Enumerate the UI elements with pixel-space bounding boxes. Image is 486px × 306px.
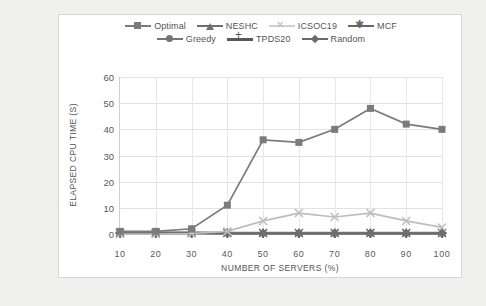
random-series-swatch bbox=[302, 34, 328, 44]
y-tick-label-50: 50 bbox=[103, 98, 114, 109]
x-tick-label-60: 60 bbox=[293, 249, 304, 259]
x-tick-label-80: 80 bbox=[365, 249, 376, 259]
y-tick-label-10: 10 bbox=[103, 202, 114, 213]
legend-row-1: Optimal NESHC ✕ ICSOC19 bbox=[125, 21, 397, 31]
x-tick-label-90: 90 bbox=[401, 249, 412, 259]
point-optimal-50 bbox=[260, 136, 267, 143]
y-tick-label-30: 30 bbox=[103, 150, 114, 161]
tpds20-series-swatch: + bbox=[227, 34, 253, 44]
point-optimal-70 bbox=[331, 126, 338, 133]
x-tick-label-30: 30 bbox=[186, 249, 197, 259]
y-tick-label-60: 60 bbox=[103, 72, 114, 83]
y-axis-title: ELAPSED CPU TIME (S) bbox=[68, 103, 78, 207]
legend-item-icsoc19[interactable]: ✕ ICSOC19 bbox=[269, 21, 337, 31]
neshc-series-swatch bbox=[197, 21, 223, 31]
series-layer bbox=[120, 77, 442, 234]
optimal-series-swatch bbox=[125, 21, 151, 31]
legend-row-2: Greedy + TPDS20 Random bbox=[157, 34, 365, 44]
gridline-x-100 bbox=[442, 77, 443, 234]
legend-label-mcf: MCF bbox=[377, 21, 397, 31]
greedy-series-swatch bbox=[157, 34, 183, 44]
legend-label-optimal: Optimal bbox=[154, 21, 186, 31]
legend-label-tpds20: TPDS20 bbox=[256, 34, 291, 44]
point-optimal-30 bbox=[188, 225, 195, 232]
legend-item-greedy[interactable]: Greedy bbox=[157, 34, 216, 44]
legend-label-greedy: Greedy bbox=[186, 34, 216, 44]
legend-label-icsoc19: ICSOC19 bbox=[298, 21, 337, 31]
mcf-series-swatch: ✱ bbox=[348, 21, 374, 31]
point-optimal-40 bbox=[224, 202, 231, 209]
x-tick-label-100: 100 bbox=[434, 249, 451, 259]
y-tick-label-40: 40 bbox=[103, 124, 114, 135]
point-optimal-60 bbox=[295, 139, 302, 146]
point-optimal-80 bbox=[367, 105, 374, 112]
point-optimal-100 bbox=[439, 126, 446, 133]
icsoc19-series-swatch: ✕ bbox=[269, 21, 295, 31]
legend-item-tpds20[interactable]: + TPDS20 bbox=[227, 34, 291, 44]
legend-item-random[interactable]: Random bbox=[302, 34, 366, 44]
chart-legend: Optimal NESHC ✕ ICSOC19 bbox=[59, 21, 463, 44]
x-tick-label-40: 40 bbox=[222, 249, 233, 259]
y-tick-label-0: 0 bbox=[109, 229, 114, 240]
point-optimal-20 bbox=[152, 228, 159, 235]
y-tick-label-20: 20 bbox=[103, 176, 114, 187]
legend-item-mcf[interactable]: ✱ MCF bbox=[348, 21, 397, 31]
point-optimal-10 bbox=[117, 228, 124, 235]
plot-area: 0102030405060 102030405060708090100 bbox=[119, 77, 442, 235]
series-optimal bbox=[117, 105, 446, 235]
legend-item-optimal[interactable]: Optimal bbox=[125, 21, 186, 31]
x-axis-title: NUMBER OF SERVERS (%) bbox=[119, 263, 441, 273]
legend-label-random: Random bbox=[331, 34, 366, 44]
x-tick-label-50: 50 bbox=[258, 249, 269, 259]
point-optimal-90 bbox=[403, 121, 410, 128]
x-tick-label-10: 10 bbox=[114, 249, 125, 259]
x-tick-label-20: 20 bbox=[150, 249, 161, 259]
x-tick-label-70: 70 bbox=[329, 249, 340, 259]
chart-card: Optimal NESHC ✕ ICSOC19 bbox=[58, 14, 462, 278]
legend-item-neshc[interactable]: NESHC bbox=[197, 21, 258, 31]
screenshot-root: Optimal NESHC ✕ ICSOC19 bbox=[0, 0, 486, 306]
